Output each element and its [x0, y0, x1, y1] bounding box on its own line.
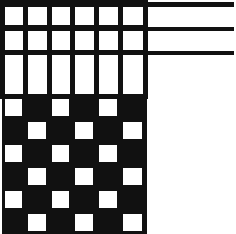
checker-cell-open [99, 191, 117, 208]
rule-lower [2, 51, 234, 55]
grid-column-rule [47, 2, 52, 96]
grid-column-rule [94, 2, 99, 96]
checker-cell-open [75, 214, 93, 231]
checkerboard-layer [2, 96, 145, 234]
checker-cell-open [28, 168, 46, 185]
grid-column-rule [143, 2, 148, 96]
checker-cell-open [28, 214, 46, 231]
checker-cell-open [52, 99, 69, 116]
grid-column-rule [23, 2, 28, 96]
figure-root [0, 0, 236, 234]
grid-right-border [144, 96, 147, 234]
checker-cell-open [75, 168, 93, 185]
rule-middle [2, 27, 234, 31]
checker-cell-open [52, 145, 69, 162]
checker-cell-open [99, 99, 117, 116]
grid-row-rule [0, 94, 148, 99]
checkerboard-ground [2, 96, 145, 234]
grid-checkerboard-figure [0, 0, 236, 234]
rule-top [2, 2, 234, 7]
checker-cell-open [52, 191, 69, 208]
checker-cell-open [5, 145, 22, 162]
checker-cell-open [5, 191, 22, 208]
grid-column-rule [0, 2, 5, 96]
checker-cell-open [5, 99, 22, 116]
checker-cell-open [28, 122, 46, 139]
checker-cell-open [123, 168, 142, 185]
checker-cell-open [123, 122, 142, 139]
checker-cell-open [99, 145, 117, 162]
checker-cell-open [75, 122, 93, 139]
grid-column-rule [70, 2, 75, 96]
grid-column-rule [118, 2, 123, 96]
checker-cell-open [123, 214, 142, 231]
